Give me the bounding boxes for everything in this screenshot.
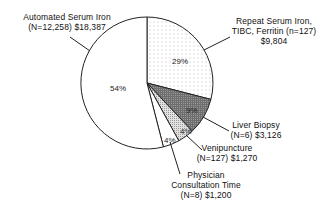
label-automated-line2: (N=12,258) $18,387 bbox=[8, 22, 126, 32]
label-automated-line1: Automated Serum Iron bbox=[8, 12, 126, 22]
pct-physician: 4% bbox=[164, 136, 176, 145]
leader-automated bbox=[70, 37, 90, 51]
label-liver-line1: Liver Biopsy bbox=[226, 120, 286, 130]
label-repeat-serum-iron: Repeat Serum Iron, TIBC, Ferritin (n=127… bbox=[222, 16, 325, 46]
label-repeat-line2: TIBC, Ferritin (n=127) bbox=[222, 26, 325, 36]
label-physician-consultation: Physician Consultation Time (N=8) $1,200 bbox=[168, 170, 244, 200]
label-repeat-line1: Repeat Serum Iron, bbox=[222, 16, 325, 26]
label-venipuncture-line1: Venipuncture bbox=[196, 143, 258, 153]
pct-automated: 54% bbox=[110, 84, 126, 93]
label-liver-biopsy: Liver Biopsy (N=6) $3,126 bbox=[226, 120, 286, 140]
pct-liver: 9% bbox=[186, 106, 198, 115]
label-venipuncture-line2: (N=127) $1,270 bbox=[196, 153, 258, 163]
pct-repeat: 29% bbox=[172, 57, 188, 66]
pct-venipuncture: 4% bbox=[180, 127, 192, 136]
label-physician-line3: (N=8) $1,200 bbox=[168, 190, 244, 200]
label-physician-line1: Physician bbox=[168, 170, 244, 180]
label-venipuncture: Venipuncture (N=127) $1,270 bbox=[196, 143, 258, 163]
label-repeat-line3: $9,804 bbox=[222, 36, 325, 46]
label-automated-serum-iron: Automated Serum Iron (N=12,258) $18,387 bbox=[8, 12, 126, 32]
label-liver-line2: (N=6) $3,126 bbox=[226, 130, 286, 140]
label-physician-line2: Consultation Time bbox=[168, 180, 244, 190]
